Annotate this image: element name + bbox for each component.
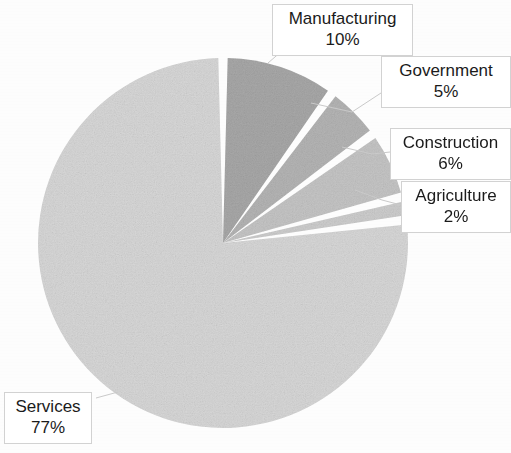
data-label-government: Government 5% — [381, 56, 511, 108]
data-label-manufacturing: Manufacturing 10% — [272, 4, 413, 56]
data-label-services: Services 77% — [4, 392, 92, 444]
data-label-manufacturing-name: Manufacturing — [289, 9, 397, 28]
chart-canvas: Manufacturing 10% Government 5% Construc… — [0, 0, 511, 453]
data-label-government-value: 5% — [389, 82, 503, 103]
data-label-construction-value: 6% — [398, 154, 503, 175]
data-label-agriculture-value: 2% — [409, 207, 503, 228]
data-label-services-value: 77% — [12, 418, 84, 439]
data-label-agriculture-name: Agriculture — [415, 186, 496, 205]
leader-line-services — [96, 392, 118, 398]
data-label-services-name: Services — [15, 397, 80, 416]
data-label-construction: Construction 6% — [390, 128, 511, 180]
data-label-government-name: Government — [399, 61, 493, 80]
data-label-agriculture: Agriculture 2% — [401, 181, 511, 233]
data-label-manufacturing-value: 10% — [280, 30, 405, 51]
data-label-construction-name: Construction — [403, 133, 498, 152]
